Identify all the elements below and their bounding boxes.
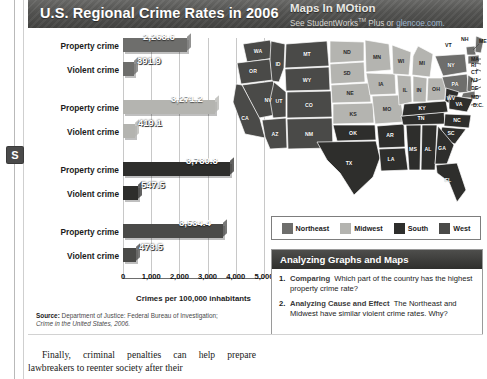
bar-category-label: Property crime (33, 103, 119, 113)
map-label-TX: TX (346, 160, 353, 166)
map-label-GA: GA (438, 145, 446, 151)
x-axis-title: Crimes per 100,000 inhabitants (123, 294, 264, 303)
map-callout-RI: RI (471, 62, 476, 68)
map-label-NC: NC (453, 117, 461, 123)
map-label-IA: IA (378, 81, 383, 87)
map-label-KS: KS (349, 111, 356, 117)
feature-panel: U.S. Regional Crime Rates in 2006 Maps I… (28, 0, 483, 335)
map-label-ND: ND (343, 49, 351, 55)
source-text: Department of Justice: Federal Bureau of… (60, 312, 218, 319)
chart-gridline (179, 38, 180, 278)
page-title: U.S. Regional Crime Rates in 2006 (40, 5, 279, 21)
map-callout-DC: D.C. (473, 102, 483, 108)
question-2-term: Analyzing Cause and Effect (290, 299, 390, 308)
trademark-mark: TM (358, 17, 366, 23)
map-label-WI: WI (398, 58, 404, 64)
question-2-number: 2. (279, 299, 290, 319)
legend-label: Midwest (354, 224, 382, 233)
legend-item: Northeast (282, 223, 330, 234)
bar-category-label: Violent crime (33, 127, 119, 137)
map-label-SC: SC (447, 130, 454, 136)
question-1-number: 1. (279, 274, 290, 294)
state-TX (317, 141, 380, 195)
paragraph-text: Finally, criminal penalties can help pre… (28, 349, 256, 373)
chart-bar (123, 186, 138, 200)
map-callout-CT: CT (471, 69, 478, 75)
source-italic: Crime in the United States, 2006. (36, 320, 130, 327)
question-1-term: Comparing (290, 274, 330, 283)
body-paragraph: Finally, criminal penalties can help pre… (28, 348, 256, 374)
legend-item: South (394, 223, 428, 234)
maps-in-motion-title: Maps In MOtion (290, 2, 475, 14)
map-label-NV: NV (264, 97, 271, 103)
map-label-MI: MI (419, 60, 425, 66)
legend-label: West (453, 224, 470, 233)
map-label-OH: OH (432, 86, 440, 92)
margin-rule-outer (14, 0, 15, 379)
maps-in-motion-subtitle-pre: See StudentWorks (290, 19, 358, 28)
map-label-NE: NE (346, 90, 353, 96)
map-label-IN: IN (416, 87, 421, 93)
us-region-map: WA OR ID MT WY NV CA UT CO AZ NM ND SD N… (223, 30, 483, 215)
question-1-body: Comparing Which part of the country has … (290, 274, 475, 294)
bar-value-label: 3,780.8 (186, 155, 218, 166)
x-axis-tick: 0 (121, 272, 125, 281)
bar-value-label: 2,268.6 (143, 31, 175, 42)
map-label-MT: MT (303, 51, 311, 57)
bar-value-label: 419.1 (138, 117, 162, 128)
bar-value-label: 3,271.2 (171, 93, 203, 104)
x-axis-tick: 1,000 (142, 272, 161, 281)
maps-in-motion-subtitle: See StudentWorksTM Plus or glencoe.com. (290, 15, 475, 28)
map-label-ID: ID (275, 61, 280, 67)
bar-value-label: 547.5 (141, 179, 165, 190)
state-VTNH (466, 46, 476, 55)
map-label-NY: NY (447, 62, 454, 68)
bar-category-label: Violent crime (33, 251, 119, 261)
left-margin-rail: S (0, 0, 28, 379)
map-callout-VT: VT (445, 42, 452, 48)
chart-bar (123, 62, 134, 76)
map-callout-NJ: NJ (471, 77, 478, 83)
map-label-MS: MS (409, 146, 417, 152)
bar-value-label: 473.5 (139, 241, 163, 252)
map-label-FL: FL (445, 177, 451, 183)
legend-item: Midwest (340, 223, 382, 234)
feature-bottom-rule (28, 334, 483, 335)
glencoe-link[interactable]: glencoe.com. (396, 19, 445, 28)
x-axis-tick: 4,000 (226, 272, 245, 281)
question-2-body: Analyzing Cause and Effect The Northeast… (290, 299, 475, 319)
bar-3d-cap (215, 95, 219, 112)
feature-header-band: U.S. Regional Crime Rates in 2006 Maps I… (28, 0, 483, 28)
legend-swatch (282, 223, 293, 234)
x-axis-tick: 2,000 (170, 272, 189, 281)
map-callout-DE: DE (471, 85, 478, 91)
map-callout-ME: ME (479, 38, 487, 44)
map-callout-MD: MD (471, 94, 479, 100)
x-axis-tick: 3,000 (198, 272, 217, 281)
bar-category-label: Property crime (33, 165, 119, 175)
bar-3d-cap (223, 219, 227, 236)
map-label-VA: VA (456, 101, 463, 107)
map-label-OR: OR (249, 68, 257, 74)
map-label-SD: SD (343, 70, 350, 76)
map-label-AL: AL (425, 146, 432, 152)
map-label-CA: CA (241, 115, 249, 121)
map-label-OK: OK (349, 130, 357, 136)
map-label-CO: CO (305, 102, 313, 108)
legend-label: South (408, 224, 428, 233)
map-label-UT: UT (276, 98, 283, 104)
bar-category-label: Property crime (33, 227, 119, 237)
maps-in-motion-subtitle-mid: Plus or (366, 19, 396, 28)
bar-category-label: Violent crime (33, 189, 119, 199)
map-label-WA: WA (254, 48, 262, 54)
bar-3d-cap (187, 33, 191, 50)
map-label-MO: MO (383, 106, 391, 112)
legend-label: Northeast (296, 224, 330, 233)
map-label-IL: IL (403, 87, 408, 93)
chart-source-note: Source: Department of Justice: Federal B… (36, 312, 268, 328)
map-label-WY: WY (303, 77, 311, 83)
legend-swatch (394, 223, 405, 234)
map-label-KY: KY (418, 105, 425, 111)
bar-category-label: Property crime (33, 41, 119, 51)
legend-swatch (439, 223, 450, 234)
